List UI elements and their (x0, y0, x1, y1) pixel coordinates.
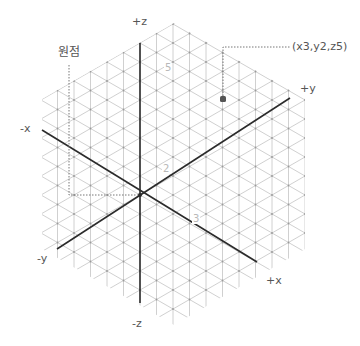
point-coordinate-label: (x3,y2,z5) (292, 41, 347, 52)
axis-label-plus-x: +x (266, 275, 282, 286)
axis-label-plus-z: +z (132, 16, 147, 27)
tick-label-y: 2 (162, 164, 170, 174)
origin-marker (138, 193, 142, 197)
point-marker (220, 96, 226, 102)
axis-label-minus-z: -z (132, 318, 142, 329)
y-axis (57, 98, 290, 249)
axis-label-minus-y: -y (37, 253, 47, 264)
tick-label-z: 5 (164, 63, 172, 73)
axis-label-plus-y: +y (300, 83, 316, 94)
axis-label-minus-x: -x (20, 123, 30, 134)
tick-label-x: 3 (192, 214, 200, 224)
origin-title-label: 원점 (58, 46, 80, 58)
